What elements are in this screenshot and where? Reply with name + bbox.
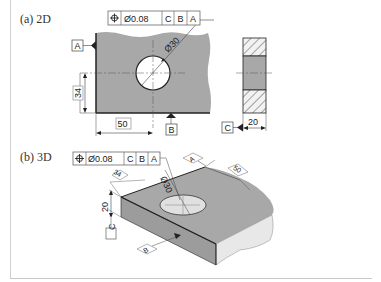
fcf-datum-2: B bbox=[178, 14, 184, 24]
datum-a-label: A bbox=[75, 41, 81, 51]
fcf-datum-1-3d: C bbox=[127, 154, 134, 164]
side-section-view: 20 C bbox=[222, 38, 273, 133]
dim-50: 50 bbox=[118, 119, 128, 129]
feature-control-frame-2d: Ø0.08 C B A bbox=[108, 11, 200, 25]
fcf-tolerance-3d: Ø0.08 bbox=[88, 154, 113, 164]
datum-b-label: B bbox=[169, 125, 175, 135]
isometric-view-3d: Ø30 20 C 34 50 A B bbox=[100, 153, 274, 265]
front-view-2d: Ø30 A B 34 50 bbox=[72, 20, 214, 136]
datum-triangle-icon bbox=[237, 124, 243, 132]
fcf-datum-3-3d: A bbox=[151, 154, 157, 164]
dim-20: 20 bbox=[248, 117, 258, 127]
fcf-datum-2-3d: B bbox=[139, 154, 145, 164]
fcf-datum-3: A bbox=[190, 14, 196, 24]
datum-triangle-icon bbox=[91, 41, 96, 50]
dim-34: 34 bbox=[73, 88, 83, 98]
feature-control-frame-3d: Ø0.08 C B A bbox=[73, 152, 160, 165]
dim-20-3d: 20 bbox=[100, 202, 110, 212]
datum-c-label-3d: C bbox=[107, 223, 117, 230]
fcf-tolerance: Ø0.08 bbox=[124, 14, 149, 24]
fcf-datum-1: C bbox=[165, 14, 172, 24]
drawing-canvas: Ø30 A B 34 50 bbox=[0, 0, 381, 282]
datum-c-label: C bbox=[225, 123, 232, 133]
